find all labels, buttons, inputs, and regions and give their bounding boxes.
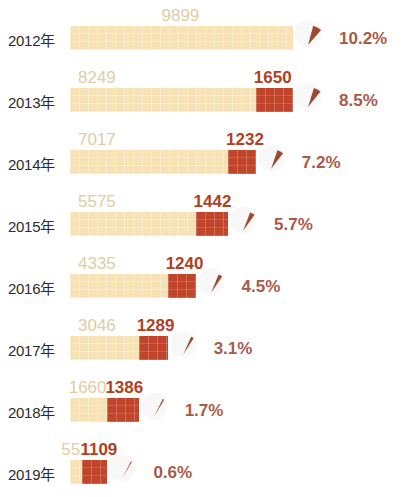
value-label-red: 1650 (254, 69, 292, 86)
bar-segment-red (196, 212, 228, 236)
bar-segment-cream (70, 26, 293, 50)
percent-label: 3.1% (214, 340, 253, 357)
bar-segment-cream (70, 88, 256, 112)
pie-wedge-marker (264, 142, 298, 176)
year-label: 2018年 (8, 401, 66, 422)
pie-wedge-marker (176, 328, 210, 362)
percent-label: 8.5% (339, 92, 378, 109)
bar-segment-red (139, 336, 168, 360)
stacked-bar (70, 88, 293, 112)
stacked-bar (70, 150, 256, 174)
chart-row: 2012年989910.2% (0, 18, 405, 80)
bar-segment-red (228, 150, 256, 174)
year-label: 2015年 (8, 215, 66, 236)
percent-label: 5.7% (274, 216, 313, 233)
value-label-cream: 3046 (78, 317, 116, 334)
chart-row: 2017年304612893.1% (0, 328, 405, 390)
percent-label: 7.2% (302, 154, 341, 171)
value-label-cream: 7017 (78, 131, 116, 148)
stacked-bar-chart: 2012年989910.2%2013年824916508.5%2014年7017… (0, 0, 405, 497)
value-label-red: 1442 (194, 193, 232, 210)
year-label: 2014年 (8, 153, 66, 174)
bar-segment-cream (70, 336, 139, 360)
chart-row: 2019年55111090.6% (0, 452, 405, 497)
year-label: 2019年 (8, 463, 66, 484)
value-label-cream: 4335 (78, 255, 116, 272)
year-label: 2017年 (8, 339, 66, 360)
stacked-bar (70, 274, 196, 298)
pie-wedge-marker (115, 452, 149, 486)
bar-segment-red (107, 398, 138, 422)
value-label-red: 1386 (105, 379, 143, 396)
value-label-cream: 9899 (162, 7, 200, 24)
percent-label: 4.5% (242, 278, 281, 295)
chart-row: 2013年824916508.5% (0, 80, 405, 142)
stacked-bar (70, 26, 293, 50)
bar-segment-cream (70, 274, 168, 298)
value-label-red: 1232 (226, 131, 264, 148)
value-label-red: 1109 (80, 441, 117, 458)
stacked-bar (70, 460, 107, 484)
pie-wedge-marker (236, 204, 270, 238)
percent-label: 1.7% (185, 402, 224, 419)
stacked-bar (70, 398, 139, 422)
pie-wedge-marker (204, 266, 238, 300)
bar-segment-cream (70, 398, 107, 422)
percent-label: 0.6% (153, 464, 192, 481)
value-label-cream: 8249 (78, 69, 116, 86)
value-label-red: 1289 (137, 317, 175, 334)
bar-segment-red (82, 460, 107, 484)
value-label-red: 1240 (166, 255, 204, 272)
value-label-cream: 1660 (69, 379, 107, 396)
chart-row: 2016年433512404.5% (0, 266, 405, 328)
pie-wedge-marker (301, 80, 335, 114)
stacked-bar (70, 336, 168, 360)
year-label: 2012年 (8, 29, 66, 50)
bar-segment-red (256, 88, 293, 112)
pie-wedge-marker (301, 18, 335, 52)
bar-segment-cream (70, 150, 228, 174)
year-label: 2016年 (8, 277, 66, 298)
bar-segment-cream (70, 460, 82, 484)
bar-segment-cream (70, 212, 196, 236)
pie-wedge-marker (147, 390, 181, 424)
stacked-bar (70, 212, 228, 236)
percent-label: 10.2% (339, 30, 387, 47)
bar-segment-red (168, 274, 196, 298)
value-label-cream: 5575 (78, 193, 116, 210)
year-label: 2013年 (8, 91, 66, 112)
